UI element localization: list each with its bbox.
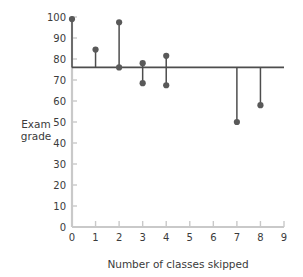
x-axis-tick-label: 9 [281,232,287,243]
y-axis-tick-label: 60 [53,96,66,107]
x-axis-tick-label: 5 [187,232,193,243]
y-axis-title-line1: Exam [21,118,51,130]
y-axis-tick-label: 90 [53,33,66,44]
y-axis-tick-label: 80 [53,54,66,65]
x-axis-tick-label: 0 [69,232,75,243]
x-axis-tick-label: 4 [163,232,169,243]
y-axis-tick-label: 40 [53,138,66,149]
y-axis-tick-label: 10 [53,201,66,212]
y-axis-tick-label: 0 [60,222,66,233]
y-axis-tick-label: 30 [53,159,66,170]
x-axis-tick-label: 1 [92,232,98,243]
x-axis-tick-label: 7 [234,232,240,243]
data-point [116,19,122,25]
data-point [163,82,169,88]
x-axis-tick-label: 3 [139,232,145,243]
data-point [234,119,240,125]
x-axis-tick-label: 2 [116,232,122,243]
data-point [140,80,146,86]
y-axis-tick-label: 100 [47,12,66,23]
x-axis-title: Number of classes skipped [107,258,248,270]
data-point [116,64,122,70]
data-point [140,60,146,66]
y-axis-tick-label: 70 [53,75,66,86]
data-point [69,16,75,22]
data-point [163,53,169,59]
x-axis-tick-label: 8 [257,232,263,243]
data-point [257,102,263,108]
y-axis-tick-label: 20 [53,180,66,191]
x-axis-tick-label: 6 [210,232,216,243]
data-point [92,46,98,52]
y-axis-tick-label: 50 [53,117,66,128]
chart-figure: 0102030405060708090100 0123456789 Exam g… [0,0,303,277]
y-axis-title-line2: grade [21,130,52,142]
scatter-plot-svg: 0102030405060708090100 0123456789 Exam g… [0,0,303,277]
